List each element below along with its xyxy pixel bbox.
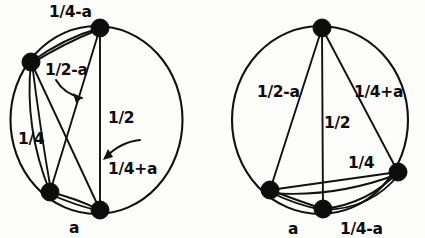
left-circle-graph: 1/4-a 1/2-a 1/2 1/4 1/4+a a bbox=[11, 3, 183, 237]
left-label-quarter-plus-a: 1/4+a bbox=[108, 160, 157, 178]
right-label-a: a bbox=[288, 220, 298, 238]
right-node-right[interactable] bbox=[389, 163, 407, 181]
left-node-lower-left[interactable] bbox=[41, 183, 59, 201]
left-node-bottom[interactable] bbox=[91, 201, 109, 219]
left-label-half-minus-a: 1/2-a bbox=[45, 61, 88, 79]
right-label-half-minus-a: 1/2-a bbox=[257, 83, 300, 101]
left-edge-upperleft-lowerleft-inner bbox=[32, 63, 51, 191]
right-circle-graph: 1/2-a 1/4+a 1/2 1/4 a 1/4-a bbox=[232, 19, 408, 238]
diagram-canvas: 1/4-a 1/2-a 1/2 1/4 1/4+a a bbox=[0, 0, 425, 238]
left-node-top[interactable] bbox=[91, 19, 109, 37]
left-node-upper-left[interactable] bbox=[22, 53, 40, 71]
right-node-bottom[interactable] bbox=[314, 200, 332, 218]
left-label-half: 1/2 bbox=[108, 109, 134, 127]
right-label-half: 1/2 bbox=[324, 114, 350, 132]
figure-root: 1/4-a 1/2-a 1/2 1/4 1/4+a a bbox=[0, 0, 425, 238]
left-label-quarter: 1/4 bbox=[18, 130, 45, 148]
left-arrow-half-minus-a bbox=[56, 80, 82, 98]
right-label-quarter-minus-a: 1/4-a bbox=[340, 220, 383, 238]
right-edge-top-lowerleft bbox=[270, 28, 322, 190]
right-node-top[interactable] bbox=[313, 19, 331, 37]
right-label-quarter-plus-a: 1/4+a bbox=[354, 83, 403, 101]
right-label-quarter: 1/4 bbox=[348, 154, 375, 172]
left-edge-top-lowerleft bbox=[50, 28, 100, 192]
right-node-lower-left[interactable] bbox=[261, 181, 279, 199]
left-label-a: a bbox=[69, 219, 79, 237]
left-label-quarter-minus-a: 1/4-a bbox=[49, 3, 92, 21]
